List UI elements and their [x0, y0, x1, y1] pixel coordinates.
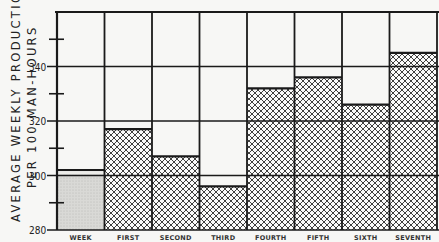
y-tick-label-340: 340	[29, 61, 46, 72]
bar-week	[57, 170, 105, 230]
bar-second	[152, 156, 200, 230]
x-label-third: THIRD	[200, 234, 248, 242]
y-tick-label-320: 320	[29, 116, 46, 127]
x-label-seventh: SEVENTH	[390, 234, 438, 242]
bar-fifth	[295, 77, 343, 230]
y-tick-label-300: 300	[29, 170, 46, 181]
plot-area	[0, 0, 439, 242]
bar-sixth	[342, 105, 390, 230]
production-bar-chart: AVERAGE WEEKLY PRODUCTION PER 100 MAN-HO…	[0, 0, 439, 242]
x-label-sixth: SIXTH	[342, 234, 390, 242]
x-label-week: WEEK	[57, 234, 105, 242]
x-label-first: FIRST	[105, 234, 153, 242]
bar-fourth	[247, 88, 295, 230]
y-axis-title-line-2: PER 100 MAN-HOURS	[25, 25, 39, 188]
bar-third	[200, 186, 248, 230]
bar-seventh	[390, 53, 438, 230]
bar-first	[105, 129, 153, 230]
x-label-second: SECOND	[152, 234, 200, 242]
y-tick-label-280: 280	[29, 225, 46, 236]
y-axis-title-line-1: AVERAGE WEEKLY PRODUCTION	[9, 0, 23, 222]
x-label-fifth: FIFTH	[295, 234, 343, 242]
x-label-fourth: FOURTH	[247, 234, 295, 242]
